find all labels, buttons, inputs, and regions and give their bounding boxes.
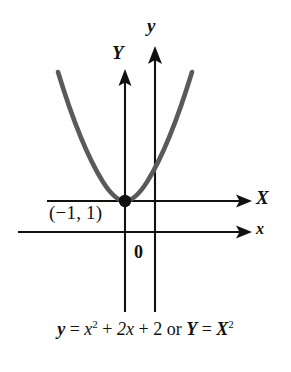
parabola-figure: Y y X x 0 (−1, 1) y = x2 + 2x + 2 or Y =… [0,0,291,372]
equation-plus-1: + [102,319,112,339]
original-x-axis [18,226,252,239]
equation-equals-1: = [70,319,80,339]
equation-plus-2: + [138,319,148,339]
plot-canvas [0,0,291,372]
equation-rhs-var: Y [186,319,197,339]
equation-caption: y = x2 + 2x + 2 or Y = X2 [0,320,291,338]
equation-lhs-var: y [57,319,65,339]
equation-equals-2: = [202,319,212,339]
translated-y-axis [119,69,132,312]
translated-x-axis-label: X [256,188,269,207]
equation-conjunction: or [167,319,182,339]
equation-term4-exponent: 2 [228,318,234,330]
vertex-coordinate-label: (−1, 1) [49,203,102,222]
equation-term3: 2 [153,319,162,339]
equation-term4-base: X [216,319,228,339]
origin-label: 0 [134,243,143,261]
original-x-axis-label: x [256,221,264,237]
equation-term2: 2x [117,319,134,339]
vertex-point-marker [119,195,131,207]
translated-y-axis-label: Y [112,43,124,62]
original-y-axis-label: y [147,16,155,35]
